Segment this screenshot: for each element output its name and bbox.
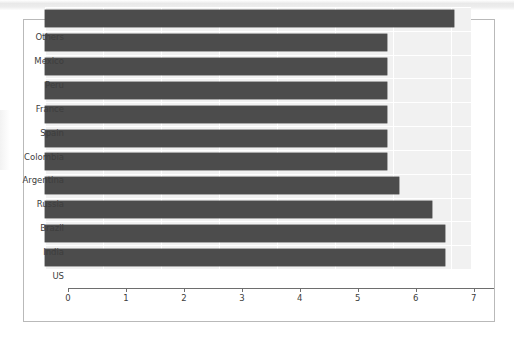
y-axis-label-brazil: Brazil (40, 220, 64, 237)
x-axis-tick-mark (184, 288, 185, 292)
bar-argentina[interactable] (45, 153, 387, 170)
gridline-horizontal (45, 269, 471, 270)
bar-india[interactable] (45, 225, 445, 242)
x-axis-tick-mark (126, 288, 127, 292)
gridline-horizontal (45, 174, 471, 175)
x-axis-tick-label-3: 3 (239, 293, 244, 303)
bar-row (45, 177, 471, 194)
x-axis-tick-label-6: 6 (413, 293, 418, 303)
bar-row (45, 225, 471, 242)
bar-row (45, 153, 471, 170)
bar-row (45, 130, 471, 147)
gridline-horizontal (45, 102, 471, 103)
y-axis-label-others: Others (35, 29, 64, 46)
chart-figure-frame: Common Log : of Coronavirus Confirmed Ca… (23, 19, 495, 322)
x-axis-tick-label-0: 0 (65, 293, 70, 303)
y-axis-label-colombia: Colombia (24, 149, 64, 166)
bar-peru[interactable] (45, 58, 387, 75)
bar-brazil[interactable] (45, 201, 432, 218)
gridline-horizontal (45, 221, 471, 222)
x-axis-tick-label-5: 5 (355, 293, 360, 303)
y-axis-labels: OthersMexicoPeruFranceSpainColombiaArgen… (0, 26, 68, 288)
gridline-horizontal (45, 150, 471, 151)
bar-others[interactable] (45, 10, 454, 27)
bar-france[interactable] (45, 82, 387, 99)
chart-canvas: OthersMexicoPeruFranceSpainColombiaArgen… (0, 0, 514, 339)
y-axis-label-france: France (36, 101, 64, 118)
y-axis-label-india: India (43, 244, 64, 261)
x-axis-tick-mark (416, 288, 417, 292)
bar-russia[interactable] (45, 177, 399, 194)
gridline-horizontal (45, 7, 471, 8)
gridline-horizontal (45, 55, 471, 56)
bar-mexico[interactable] (45, 34, 387, 51)
y-axis-label-peru: Peru (45, 77, 64, 94)
x-axis-line (68, 288, 494, 289)
y-axis-label-us: US (52, 268, 64, 285)
x-axis-tick-mark (474, 288, 475, 292)
gridline-horizontal (45, 126, 471, 127)
bar-row (45, 10, 471, 27)
plot-area (45, 7, 471, 269)
bar-row (45, 249, 471, 266)
bar-row (45, 58, 471, 75)
gridline-horizontal (45, 198, 471, 199)
y-axis-label-mexico: Mexico (34, 53, 64, 70)
bar-spain[interactable] (45, 106, 387, 123)
x-axis-tick-label-2: 2 (181, 293, 186, 303)
gridline-horizontal (45, 78, 471, 79)
x-axis-tick-mark (300, 288, 301, 292)
x-axis-tick-mark (358, 288, 359, 292)
bar-row (45, 82, 471, 99)
bar-row (45, 106, 471, 123)
gridline-horizontal (45, 31, 471, 32)
y-axis-label-spain: Spain (40, 125, 64, 142)
x-axis-tick-mark (242, 288, 243, 292)
x-axis-tick-label-7: 7 (471, 293, 476, 303)
x-axis-tick-mark (68, 288, 69, 292)
bar-us[interactable] (45, 249, 445, 266)
gridline-horizontal (45, 245, 471, 246)
x-axis-tick-label-1: 1 (123, 293, 128, 303)
x-axis-tick-label-4: 4 (297, 293, 302, 303)
y-axis-label-argentina: Argentina (23, 172, 64, 189)
bar-row (45, 201, 471, 218)
bar-row (45, 34, 471, 51)
bar-colombia[interactable] (45, 130, 387, 147)
y-axis-label-russia: Russia (37, 196, 64, 213)
